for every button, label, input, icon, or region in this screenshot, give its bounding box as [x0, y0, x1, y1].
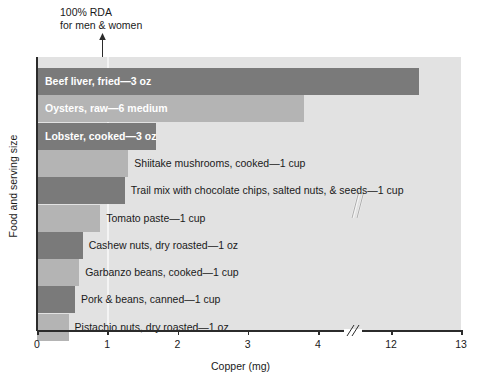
y-axis-line [36, 57, 38, 331]
x-tick-0 [37, 330, 39, 335]
bar-label-5: Tomato paste—1 cup [106, 205, 205, 232]
axis-break-icon [344, 324, 362, 338]
x-tick-2 [178, 330, 180, 335]
x-tick-4 [318, 330, 320, 335]
bar-6 [37, 232, 83, 259]
bar-label-8: Pork & beans, canned—1 cup [81, 286, 221, 313]
bar-label-9: Pistachio nuts, dry roasted—1 oz [75, 314, 229, 341]
bar-4 [37, 177, 125, 204]
rda-annotation-line2: for men & women [60, 19, 142, 32]
bar-9 [37, 314, 69, 341]
x-tick-label-0: 0 [34, 338, 40, 350]
x-tick-label-3: 3 [245, 338, 251, 350]
bar-8 [37, 286, 75, 313]
x-tick-label-2: 2 [175, 338, 181, 350]
x-tick-label-4: 4 [315, 338, 321, 350]
bar-label-1: Oysters, raw—6 medium [45, 95, 168, 122]
copper-content-bar-chart: 100% RDA for men & women Beef liver, fri… [0, 0, 481, 384]
x-axis-label: Copper (mg) [0, 360, 481, 372]
x-tick-1 [107, 330, 109, 335]
bar-label-2: Lobster, cooked—3 oz [45, 123, 156, 150]
rda-annotation: 100% RDA for men & women [60, 6, 142, 32]
x-tick-label-5: 12 [385, 338, 397, 350]
bar-break-icon [349, 68, 365, 341]
x-tick-label-6: 13 [455, 338, 467, 350]
x-tick-5 [391, 330, 393, 335]
bar-7 [37, 259, 79, 286]
bar-label-7: Garbanzo beans, cooked—1 cup [85, 259, 239, 286]
x-tick-label-1: 1 [104, 338, 110, 350]
y-axis-label: Food and serving size [7, 111, 19, 261]
bar-5 [37, 205, 100, 232]
bar-3 [37, 150, 128, 177]
up-arrow-icon [98, 33, 107, 58]
rda-annotation-line1: 100% RDA [60, 6, 142, 19]
bar-label-3: Shiitake mushrooms, cooked—1 cup [134, 150, 305, 177]
bar-label-4: Trail mix with chocolate chips, salted n… [131, 177, 404, 204]
bar-label-6: Cashew nuts, dry roasted—1 oz [89, 232, 238, 259]
x-tick-3 [248, 330, 250, 335]
plot-area: Beef liver, fried—3 ozOysters, raw—6 med… [37, 57, 461, 330]
bar-label-0: Beef liver, fried—3 oz [45, 68, 151, 95]
x-tick-6 [461, 330, 463, 335]
